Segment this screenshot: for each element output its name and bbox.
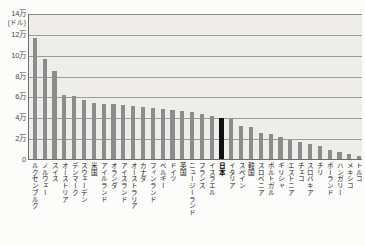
y-axis-tick-label: 2万 xyxy=(15,135,26,143)
bar[interactable] xyxy=(308,144,312,160)
x-axis-tick-label: オーストラリア xyxy=(129,162,136,209)
y-axis-tick-label: 10万 xyxy=(11,52,26,60)
y-axis-tick-label: 12万 xyxy=(11,31,26,39)
bar[interactable] xyxy=(259,133,263,160)
bar[interactable] xyxy=(141,107,145,160)
bar-highlighted[interactable] xyxy=(219,118,223,160)
x-axis-tick-label: オーストリア xyxy=(60,162,67,202)
bar[interactable] xyxy=(92,103,96,160)
x-axis-tick-label: イタリア xyxy=(227,162,234,189)
x-axis-tick-label: フィンランド xyxy=(148,162,155,202)
bar[interactable] xyxy=(72,96,76,160)
x-axis-tick-label: イスラエル xyxy=(207,162,214,196)
x-axis-tick-label: 韓国 xyxy=(247,162,254,175)
x-axis-labels: ルクセンブルクノルウェースイスオーストリアデンマークスウェーデン米国アイルランド… xyxy=(28,162,362,246)
x-axis-tick-label: アイルランド xyxy=(99,162,106,202)
bar[interactable] xyxy=(52,71,56,160)
x-axis-tick-label: カナダ xyxy=(138,162,145,182)
x-axis-tick-label: ニュージーランド xyxy=(188,162,195,216)
x-axis-tick-label: スロベニア xyxy=(256,162,263,196)
x-axis-tick-label: ギリシャ xyxy=(276,162,283,189)
bar[interactable] xyxy=(239,126,243,160)
x-axis-tick-label: トルコ xyxy=(355,162,362,182)
x-axis-tick-label: オランダ xyxy=(109,162,116,189)
y-axis: 14万12万10万8万6万4万2万0(ドル) xyxy=(0,0,28,168)
x-axis-tick-label: ルクセンブルク xyxy=(30,162,37,209)
bar[interactable] xyxy=(33,38,37,160)
x-axis-tick-label: 米国 xyxy=(89,162,96,175)
x-axis-tick-label: スペイン xyxy=(237,162,244,189)
x-axis-tick-label: スイス xyxy=(50,162,57,182)
x-axis-tick-label: ノルウェー xyxy=(40,162,47,196)
bar-series xyxy=(29,14,362,160)
y-axis-tick-label: 8万 xyxy=(15,73,26,81)
x-axis-tick-label: ベルギー xyxy=(158,162,165,189)
x-axis-tick-label: アイスランド xyxy=(119,162,126,202)
chart-container: 14万12万10万8万6万4万2万0(ドル) ルクセンブルクノルウェースイスオー… xyxy=(0,0,365,246)
bar[interactable] xyxy=(229,119,233,160)
x-axis-tick-label: チェコ xyxy=(296,162,303,182)
y-axis-tick-label: 14万 xyxy=(11,10,26,18)
bar[interactable] xyxy=(318,146,322,160)
bar[interactable] xyxy=(161,109,165,160)
bar[interactable] xyxy=(298,142,302,160)
x-axis-tick-label: 日本 xyxy=(217,162,224,175)
x-axis-tick-label: メキシコ xyxy=(345,162,352,189)
bar[interactable] xyxy=(170,110,174,160)
x-axis-tick-label: チリ xyxy=(315,162,322,175)
bar[interactable] xyxy=(62,95,66,160)
x-axis-tick-label: デンマーク xyxy=(70,162,77,196)
x-axis-tick-label: ドイツ xyxy=(168,162,175,182)
bar[interactable] xyxy=(131,106,135,160)
bar[interactable] xyxy=(288,140,292,160)
bar[interactable] xyxy=(43,59,47,160)
plot-area xyxy=(28,14,362,160)
bar[interactable] xyxy=(82,100,86,160)
bar[interactable] xyxy=(121,105,125,160)
x-axis-tick-label: 英国 xyxy=(178,162,185,175)
y-axis-tick-label: 0 xyxy=(22,156,26,164)
bar[interactable] xyxy=(200,114,204,160)
bar[interactable] xyxy=(180,111,184,160)
bar[interactable] xyxy=(269,134,273,160)
x-axis-tick-label: ポルトガル xyxy=(266,162,273,196)
x-axis-tick-label: ポーランド xyxy=(325,162,332,196)
axis-baseline xyxy=(29,159,362,160)
bar[interactable] xyxy=(102,104,106,160)
bar[interactable] xyxy=(151,108,155,160)
x-axis-tick-label: スロバキア xyxy=(305,162,312,196)
x-axis-tick-label: フランス xyxy=(197,162,204,189)
x-axis-tick-label: スウェーデン xyxy=(80,162,87,202)
bar[interactable] xyxy=(278,137,282,160)
y-axis-tick-label: 6万 xyxy=(15,93,26,101)
bar[interactable] xyxy=(190,112,194,160)
x-axis-tick-label: ハンガリー xyxy=(335,162,342,196)
bar[interactable] xyxy=(111,104,115,160)
y-axis-tick-label: 4万 xyxy=(15,114,26,122)
bar[interactable] xyxy=(249,127,253,160)
bar[interactable] xyxy=(210,116,214,160)
x-axis-tick-label: エストニア xyxy=(286,162,293,196)
y-axis-unit-label: (ドル) xyxy=(8,19,26,27)
